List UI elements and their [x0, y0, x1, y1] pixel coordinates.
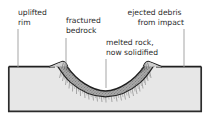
- label-melted-rock: melted rock, now solidified: [106, 38, 158, 57]
- ejected-debris-hatching: [62, 63, 149, 74]
- label-fractured-bedrock-line2: bedrock: [66, 26, 97, 35]
- ground-block: [9, 64, 201, 111]
- label-fractured-bedrock: fractured bedrock: [66, 16, 103, 35]
- impact-crater-diagram: uplifted rim fractured bedrock ejected d…: [0, 0, 211, 118]
- label-melted-rock-line1: melted rock,: [106, 38, 154, 47]
- annotation-labels: uplifted rim fractured bedrock ejected d…: [18, 8, 184, 57]
- label-ejected-debris-line1: ejected debris: [128, 8, 182, 17]
- label-uplifted-rim-line1: uplifted: [18, 8, 47, 17]
- label-ejected-debris-line2: from impact: [138, 18, 184, 27]
- label-uplifted-rim: uplifted rim: [18, 8, 49, 27]
- label-fractured-bedrock-line1: fractured: [66, 16, 101, 25]
- label-ejected-debris: ejected debris from impact: [128, 8, 184, 27]
- label-uplifted-rim-line2: rim: [18, 18, 31, 27]
- impact-crater-illustration: uplifted rim fractured bedrock ejected d…: [0, 0, 211, 118]
- label-melted-rock-line2: now solidified: [106, 48, 158, 57]
- ground-surface-line: [9, 62, 201, 67]
